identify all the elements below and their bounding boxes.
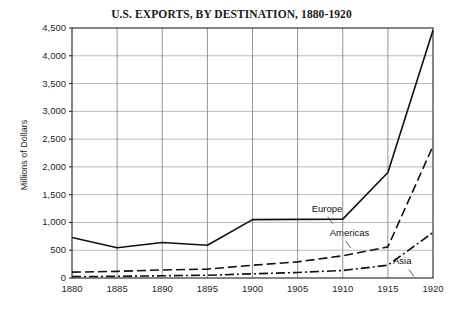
plot-area [0,0,463,314]
annotation-leader-lines [328,217,414,277]
chart-page: U.S. EXPORTS, BY DESTINATION, 1880-1920 … [0,0,463,314]
plot-frame [69,28,433,278]
vertical-gridlines [117,28,388,278]
